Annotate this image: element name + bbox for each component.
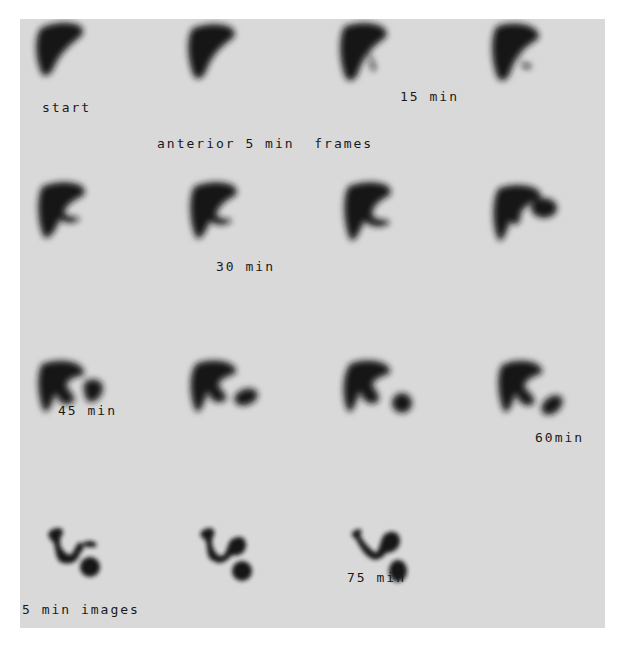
frame-2 [188,24,235,78]
frame-10 [191,361,260,412]
frame-4 [492,23,539,80]
label-60min: 60min [535,430,584,445]
label-footer: 5 min images [22,602,140,617]
frame-11 [344,361,412,413]
frame-3 [340,23,387,81]
frame-13 [48,528,100,577]
frame-12 [498,361,566,419]
label-start: start [42,100,91,115]
scintigraphy-panel: start anterior 5 min frames 15 min 30 mi… [20,19,605,628]
label-75min: 75 min [347,570,406,585]
label-45min: 45 min [58,403,117,418]
frame-8 [494,185,558,241]
scan-frames [20,19,605,628]
frame-6 [190,182,236,238]
label-title: anterior 5 min frames [157,136,373,151]
frame-14 [200,528,252,581]
label-30min: 30 min [216,259,275,274]
frame-5 [38,182,84,237]
frame-7 [344,182,390,240]
frame-1 [36,23,83,76]
label-15min: 15 min [400,89,459,104]
